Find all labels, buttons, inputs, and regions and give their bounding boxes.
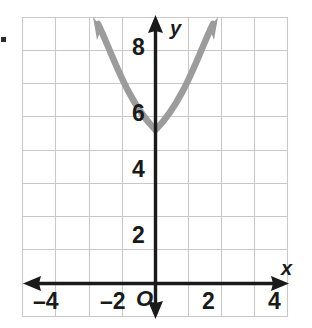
- x-tick-label-2: 2: [202, 290, 215, 313]
- y-tick-label-8: 8: [132, 36, 145, 59]
- x-tick-label-neg2: –2: [100, 290, 126, 313]
- x-tick-label-neg4: –4: [33, 290, 59, 313]
- origin-label: O: [136, 288, 153, 310]
- coordinate-plane: [0, 0, 312, 328]
- y-axis-label: y: [170, 18, 181, 38]
- x-axis-label: x: [281, 258, 292, 278]
- graph-figure: 8 6 4 2 –4 –2 2 4 O y x: [0, 0, 312, 328]
- y-tick-label-6: 6: [132, 102, 145, 125]
- y-tick-label-2: 2: [132, 224, 145, 247]
- x-tick-label-4: 4: [268, 290, 281, 313]
- y-axis: [148, 15, 163, 319]
- y-tick-label-4: 4: [132, 158, 145, 181]
